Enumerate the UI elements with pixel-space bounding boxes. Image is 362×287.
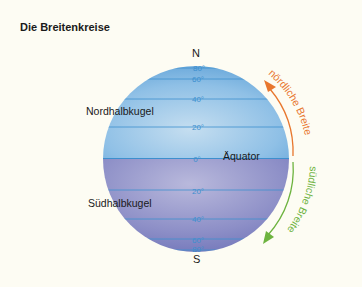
southern-hemisphere-label: Südhalbkugel	[88, 197, 152, 209]
lat-label-s60: 60°	[192, 236, 204, 245]
lat-label-s40: 40°	[192, 215, 204, 224]
equator-label: Äquator	[223, 150, 260, 162]
south-arrowhead-icon	[263, 231, 274, 244]
lat-label-equator: 0°	[193, 155, 201, 164]
north-pole-label: N	[192, 47, 200, 59]
lat-label-n60: 60°	[192, 75, 204, 84]
northern-hemisphere-label: Nordhalbkugel	[86, 105, 154, 117]
globe-diagram: nördliche Breite südliche Breite 80° 60°…	[0, 0, 362, 287]
south-arc-label: südliche Breite	[285, 166, 320, 236]
lat-label-n20: 20°	[192, 123, 204, 132]
lat-label-n40: 40°	[192, 95, 204, 104]
lat-label-n80: 80°	[193, 64, 205, 73]
lat-label-s20: 20°	[192, 187, 204, 196]
south-pole-label: S	[193, 253, 200, 265]
